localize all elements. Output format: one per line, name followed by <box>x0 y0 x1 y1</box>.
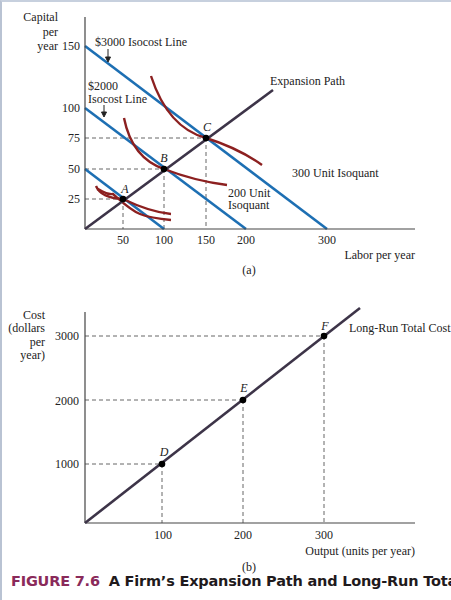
panel-b-axes <box>85 312 415 523</box>
panel-a-xtick-100: 100 <box>155 233 173 247</box>
annotation-300-isoquant: 300 Unit Isoquant <box>292 166 379 180</box>
panel-a-xtick-50: 50 <box>117 233 129 247</box>
point-f-label: F <box>320 319 329 333</box>
arrow-2000-isocost <box>102 105 107 117</box>
panel-a-xtick-300: 300 <box>318 233 336 247</box>
panel-b-ylabel-line3: per <box>30 335 45 349</box>
panel-b-ylabel-line2: (dollars <box>8 321 45 335</box>
panel-a-label: (a) <box>242 263 255 277</box>
panel-b: Cost (dollars per year) 3000 2000 1000 1… <box>8 308 451 574</box>
point-a-label: A <box>120 182 129 196</box>
panel-a-ytick-50: 50 <box>68 162 80 176</box>
panel-b-ytick-3000: 3000 <box>55 329 79 343</box>
panel-a-xtick-200: 200 <box>237 233 255 247</box>
annotation-3000-isocost: $3000 Isocost Line <box>95 35 187 49</box>
annotation-2000-isocost-line1: $2000 <box>88 79 118 93</box>
point-c <box>203 135 210 142</box>
annotation-2000-isocost-line2: Isocost Line <box>88 92 147 106</box>
annotation-long-run-total-cost: Long-Run Total Cost <box>349 321 451 335</box>
point-b <box>161 166 168 173</box>
panel-b-xtick-100: 100 <box>154 528 172 542</box>
panel-a-xlabel: Labor per year <box>344 248 415 262</box>
point-d <box>159 461 166 468</box>
figure-caption: FIGURE 7.6 A Firm’s Expansion Path and L… <box>0 573 451 597</box>
point-c-label: C <box>203 120 212 134</box>
panel-a-ylabel-line3: year <box>37 39 58 53</box>
point-b-label: B <box>160 151 168 165</box>
annotation-200-isoquant-line2: Isoquant <box>228 198 270 212</box>
point-d-label: D <box>159 445 169 459</box>
point-e <box>240 397 247 404</box>
panel-b-xtick-200: 200 <box>234 528 252 542</box>
annotation-expansion-path: Expansion Path <box>270 74 345 88</box>
panel-a-ytick-100: 100 <box>62 101 80 115</box>
panel-b-xlabel: Output (units per year) <box>305 544 415 558</box>
figure-label: FIGURE 7.6 <box>11 573 100 589</box>
point-f <box>321 333 328 340</box>
point-a <box>120 196 127 203</box>
panel-b-ytick-2000: 2000 <box>55 394 79 408</box>
panel-a-ytick-25: 25 <box>68 192 80 206</box>
figure-title: A Firm’s Expansion Path and Long-Run Tot… <box>109 573 451 589</box>
panel-b-ylabel-line1: Cost <box>23 308 46 322</box>
panel-a-ytick-150: 150 <box>62 39 80 53</box>
panel-a-ytick-75: 75 <box>68 131 80 145</box>
point-e-label: E <box>239 381 248 395</box>
panel-a: Capital per year 150 100 75 50 25 50 100… <box>23 10 415 277</box>
panel-a-ylabel-line1: Capital <box>23 10 58 24</box>
panel-a-ylabel-line2: per <box>43 25 58 39</box>
panel-a-xtick-150: 150 <box>197 233 215 247</box>
arrow-3000-isocost <box>106 49 111 62</box>
panel-b-xtick-300: 300 <box>315 528 333 542</box>
panel-b-ylabel-line4: year) <box>20 348 45 362</box>
figure-canvas: Capital per year 150 100 75 50 25 50 100… <box>0 0 451 600</box>
long-run-total-cost-line <box>85 308 360 523</box>
panel-b-ytick-1000: 1000 <box>55 457 79 471</box>
panel-b-label: (b) <box>242 560 256 574</box>
